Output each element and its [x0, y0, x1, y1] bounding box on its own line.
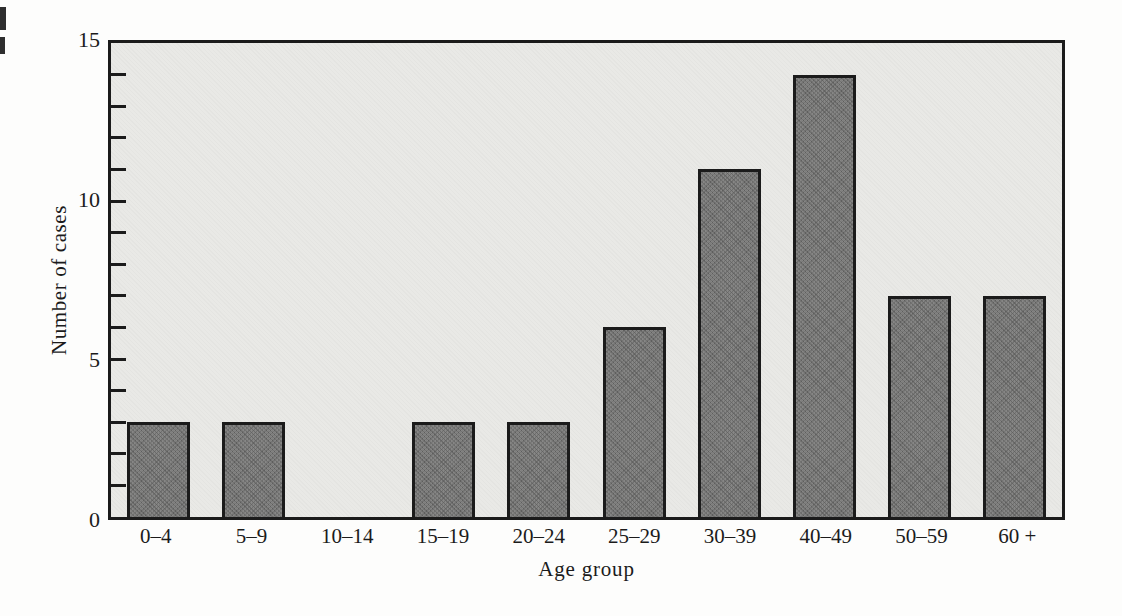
x-category-label: 60 + — [969, 525, 1065, 548]
figure-canvas: Number of cases 15 10 5 0 0–4 5–9 10–14 … — [0, 0, 1122, 616]
x-category-label: 40–49 — [778, 525, 874, 548]
x-category-label: 30–39 — [682, 525, 778, 548]
bar-slot — [777, 43, 872, 517]
x-category-label: 50–59 — [874, 525, 970, 548]
x-axis-title: Age group — [108, 557, 1065, 582]
plot-area — [108, 40, 1065, 520]
y-tick-label: 5 — [89, 349, 100, 371]
bar-slot — [111, 43, 206, 517]
bar-slot — [206, 43, 301, 517]
bar-slot — [967, 43, 1062, 517]
scan-artifact — [0, 7, 6, 30]
bar — [698, 169, 761, 517]
bar-slot — [396, 43, 491, 517]
bar-slots — [111, 43, 1062, 517]
x-tick-labels: 0–4 5–9 10–14 15–19 20–24 25–29 30–39 40… — [108, 525, 1065, 548]
bar-slot — [872, 43, 967, 517]
bar-slot — [586, 43, 681, 517]
bar-slot — [682, 43, 777, 517]
x-category-label: 15–19 — [395, 525, 491, 548]
bar — [222, 422, 285, 517]
bar-slot — [301, 43, 396, 517]
bar — [127, 422, 190, 517]
bar — [412, 422, 475, 517]
bar — [888, 296, 951, 517]
x-category-label: 20–24 — [491, 525, 587, 548]
x-category-label: 0–4 — [108, 525, 204, 548]
x-category-label: 25–29 — [587, 525, 683, 548]
bar — [603, 327, 666, 517]
x-category-label: 10–14 — [299, 525, 395, 548]
y-tick-labels: 15 10 5 0 — [0, 40, 104, 520]
bar — [507, 422, 570, 517]
bar — [793, 75, 856, 517]
y-tick-label: 15 — [78, 29, 100, 51]
x-category-label: 5–9 — [204, 525, 300, 548]
y-tick-label: 0 — [89, 509, 100, 531]
bar-slot — [491, 43, 586, 517]
y-tick-label: 10 — [78, 189, 100, 211]
bar — [983, 296, 1046, 517]
